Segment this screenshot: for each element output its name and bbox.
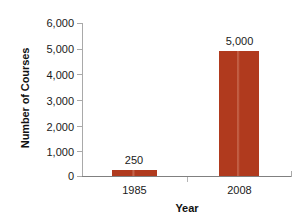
y-axis-tick-labels: 6,000 5,000 4,000 3,000 2,000 1,000 0 [28, 0, 74, 222]
y-tick-label: 4,000 [28, 70, 74, 81]
y-tick-label: 2,000 [28, 122, 74, 133]
y-tick-label: 6,000 [28, 18, 74, 29]
bar-value-label-2008: 5,000 [212, 36, 267, 47]
x-axis-end-cap [291, 171, 292, 177]
bar-value-label-1985: 250 [109, 155, 159, 166]
bar-chart: Number of Courses 6,000 5,000 4,000 3,00… [0, 0, 308, 222]
x-axis-category-1985: 1985 [107, 184, 162, 196]
x-axis-tick [187, 177, 188, 182]
x-axis-title: Year [82, 202, 292, 214]
y-tick-label: 0 [28, 171, 74, 182]
bar-2008 [219, 51, 259, 176]
x-axis-category-2008: 2008 [212, 184, 267, 196]
y-tick-label: 1,000 [28, 147, 74, 158]
bar-1985 [112, 170, 157, 176]
y-tick-label: 5,000 [28, 44, 74, 55]
y-axis-line [82, 23, 83, 176]
y-tick-label: 3,000 [28, 96, 74, 107]
